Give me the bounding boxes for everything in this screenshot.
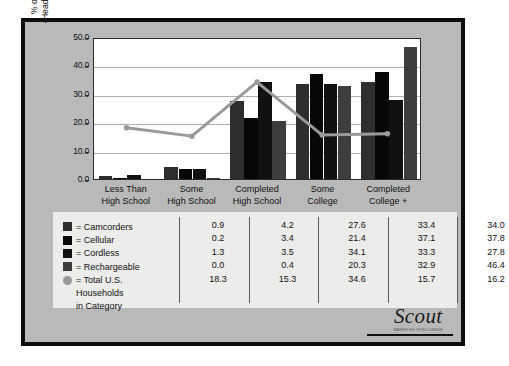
scout-logo: Scout MARKETING INTELLIGENCE [394,304,443,332]
table-cell: 34.6 [324,274,390,287]
table-cell: 0.0 [185,260,251,273]
legend-label: = Rechargeable [76,262,140,272]
y-axis-title-line1: % of Respondents [29,0,40,44]
y-axis-tick-label: 10.0 [73,146,89,156]
legend-item: = Camcorders [63,220,181,233]
legend-square-icon [63,249,72,258]
table-cell: 33.3 [394,247,460,260]
x-axis-category-label: SomeCollege [290,184,356,207]
y-axis-tick-label: 0.0 [78,174,89,184]
y-axis-tick-label: 40.0 [73,60,89,70]
legend-square-icon [63,236,72,245]
x-axis-category-label: CompletedHigh School [224,184,290,207]
table-cell: 16.2 [463,274,509,287]
logo-rule [367,334,453,336]
y-axis-tick-label: 50.0 [73,32,89,42]
table-cell: 15.7 [394,274,460,287]
table-cell: 0.4 [255,260,321,273]
x-axis-category-label: Less ThanHigh School [93,184,159,207]
legend-square-icon [63,222,72,231]
table-cell: 0.9 [185,220,251,233]
y-axis-tick [85,66,89,67]
table-column: 27.621.434.120.334.6 [324,220,390,287]
y-axis-tick [85,95,89,96]
table-cell: 3.4 [255,233,321,246]
figure-frame: % of Respondents (Heads of Households) 5… [21,18,465,346]
table-column: 33.437.133.332.915.7 [394,220,460,287]
table-cell: 33.4 [394,220,460,233]
y-axis-tick-label: 30.0 [73,89,89,99]
table-column: 4.23.43.50.415.3 [255,220,321,287]
table-cell: 37.1 [394,233,460,246]
line-data-point [385,131,391,137]
table-column-separator [388,217,389,303]
legend-item: = Cellular [63,233,181,246]
line-path [127,82,388,136]
y-axis-labels: 50.040.030.020.010.00.0 [49,31,89,187]
legend-item: = Rechargeable [63,260,181,273]
line-data-point [124,125,130,131]
logo-wordmark: Scout [394,304,443,329]
table-cell: 15.3 [255,274,321,287]
figure-panel: % of Respondents (Heads of Households) 5… [25,22,461,342]
table-column-separator [179,217,180,303]
table-cell: 3.5 [255,247,321,260]
x-axis-category-label: SomeHigh School [159,184,225,207]
y-axis-tick [85,123,89,124]
table-column: 0.90.21.30.018.3 [185,220,251,287]
legend: = Camcorders= Cellular= Cordless= Rechar… [63,220,181,314]
legend-label: = Camcorders [76,222,133,232]
table-cell: 1.3 [185,247,251,260]
legend-circle-icon [63,276,72,285]
legend-label: = Cellular [76,235,114,245]
table-cell: 32.9 [394,260,460,273]
legend-item: = Total U.S. [63,274,181,287]
line-data-point [189,133,195,139]
table-cell: 37.8 [463,233,509,246]
y-axis-title: % of Respondents (Heads of Households) [29,0,50,44]
table-cell: 34.0 [463,220,509,233]
legend-item: = Cordless [63,247,181,260]
legend-label-continued: Households [63,287,181,300]
table-cell: 20.3 [324,260,390,273]
total-households-line-series [94,39,420,179]
table-cell: 46.4 [463,260,509,273]
data-table: = Camcorders= Cellular= Cordless= Rechar… [53,212,457,308]
table-column: 34.037.827.846.416.2 [463,220,509,287]
table-cell: 21.4 [324,233,390,246]
legend-label: = Cordless [76,248,119,258]
line-data-point [319,132,325,138]
table-cell: 18.3 [185,274,251,287]
y-axis-tick [85,152,89,153]
y-axis-tick [85,38,89,39]
table-cell: 34.1 [324,247,390,260]
table-cell: 0.2 [185,233,251,246]
table-column-separator [457,217,458,303]
legend-label-continued: in Category [63,300,181,313]
line-data-point [254,79,260,85]
table-column-separator [249,217,250,303]
logo-subtitle: MARKETING INTELLIGENCE [394,328,443,332]
x-axis-labels: Less ThanHigh SchoolSomeHigh SchoolCompl… [93,182,421,212]
table-cell: 27.8 [463,247,509,260]
table-column-separator [318,217,319,303]
plot-area [93,38,421,180]
chart-area: % of Respondents (Heads of Households) 5… [93,38,421,180]
x-axis-category-label: CompletedCollege + [355,184,421,207]
table-cell: 4.2 [255,220,321,233]
y-axis-tick-label: 20.0 [73,117,89,127]
legend-square-icon [63,262,72,271]
table-cell: 27.6 [324,220,390,233]
legend-label: = Total U.S. [76,275,123,285]
y-axis-tick [85,180,89,181]
